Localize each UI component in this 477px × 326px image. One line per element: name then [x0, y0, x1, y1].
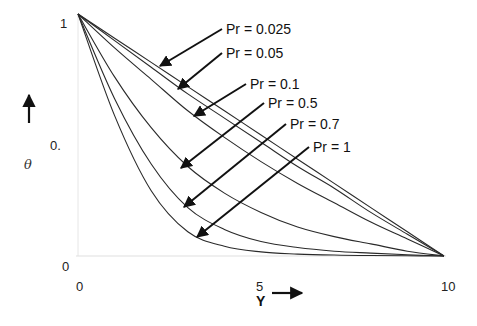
x-tick-5: 5 — [256, 279, 263, 294]
legend-label: Pr = 0.7 — [290, 116, 340, 132]
y-axis-label: θ — [24, 157, 32, 172]
annotation-arrow-icon — [197, 147, 309, 237]
y-tick-mid: 0. — [50, 138, 61, 153]
annotation-arrow-icon — [194, 84, 246, 116]
theta-vs-y-chart: Pr = 0.025Pr = 0.05Pr = 0.1Pr = 0.5Pr = … — [0, 0, 477, 326]
legend-label: Pr = 1 — [313, 139, 351, 155]
y-tick-1: 1 — [60, 16, 67, 31]
annotation-arrow-icon — [178, 53, 222, 89]
annotation-arrow-icon — [184, 124, 286, 207]
legend-label: Pr = 0.5 — [268, 95, 318, 111]
legend-annotations: Pr = 0.025Pr = 0.05Pr = 0.1Pr = 0.5Pr = … — [160, 21, 351, 237]
legend-label: Pr = 0.1 — [250, 76, 300, 92]
x-tick-10: 10 — [441, 279, 455, 294]
legend-label: Pr = 0.025 — [226, 21, 291, 37]
legend-label: Pr = 0.05 — [226, 45, 283, 61]
y-tick-0: 0 — [62, 259, 69, 274]
x-tick-0: 0 — [76, 279, 83, 294]
x-axis-label: Y — [256, 293, 266, 309]
